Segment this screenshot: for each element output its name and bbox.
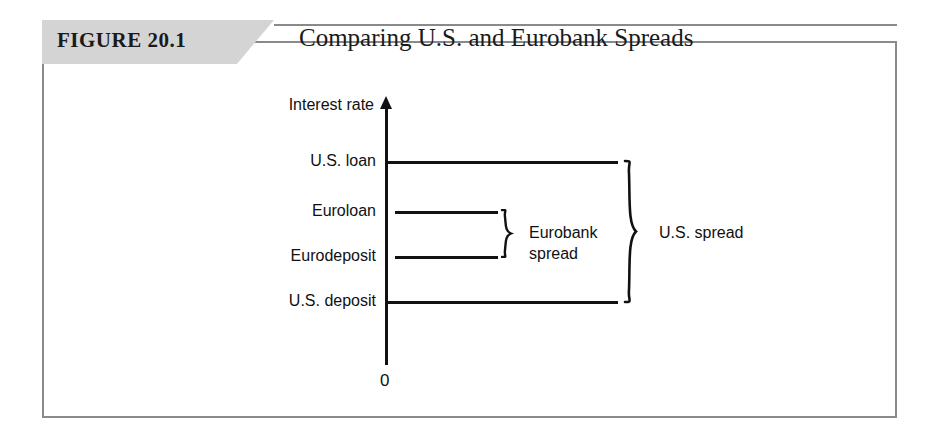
us-spread-label-line1: U.S. spread: [659, 222, 743, 243]
us-spread-brace-icon: [622, 159, 642, 305]
rate-line-euroloan: [395, 211, 498, 214]
origin-label: 0: [380, 371, 389, 391]
eurobank-spread-label-line2: spread: [529, 243, 598, 264]
eurobank-spread-label-line1: Eurobank: [529, 222, 598, 243]
eurobank-spread-label: Eurobank spread: [529, 222, 598, 264]
rate-line-us-deposit: [386, 301, 618, 304]
y-axis-title: Interest rate: [214, 96, 374, 114]
vertical-axis: [385, 107, 388, 365]
rate-line-eurodeposit: [395, 256, 498, 259]
rate-label-us-loan: U.S. loan: [146, 152, 376, 170]
figure-container: FIGURE 20.1 Comparing U.S. and Eurobank …: [0, 0, 947, 439]
us-spread-label: U.S. spread: [659, 222, 743, 243]
rate-line-us-loan: [386, 161, 618, 164]
eurobank-spread-brace-icon: [500, 209, 516, 258]
rate-label-eurodeposit: Eurodeposit: [146, 247, 376, 265]
rate-label-us-deposit: U.S. deposit: [146, 292, 376, 310]
plot-area: Interest rate 0 U.S. loan Euroloan Eurod…: [42, 41, 897, 418]
rate-label-euroloan: Euroloan: [146, 202, 376, 220]
